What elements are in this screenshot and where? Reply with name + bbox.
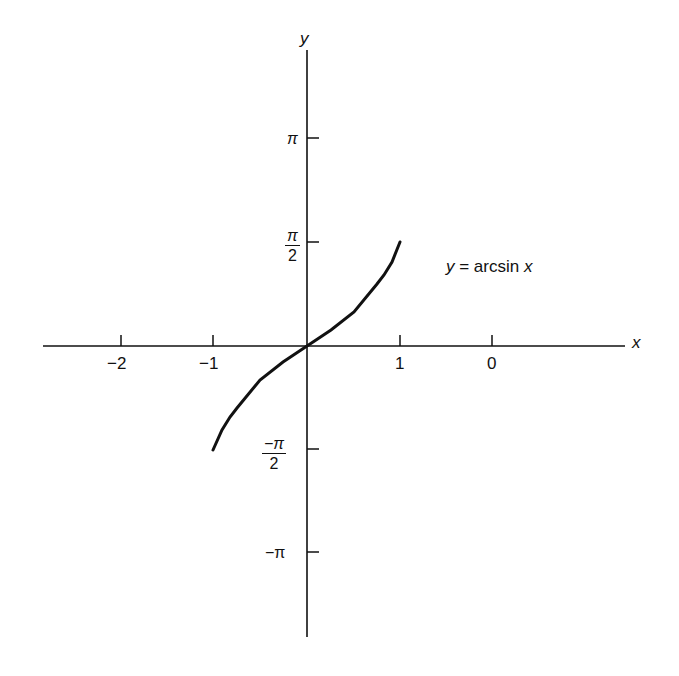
y-axis-label: y <box>300 30 309 47</box>
x-tick-label-1: 1 <box>395 355 404 372</box>
y-tick-label-minus-pi-over-2: −π 2 <box>262 436 286 472</box>
curve-equation-label: y = arcsin x <box>446 258 532 275</box>
fraction-denominator: 2 <box>285 246 300 264</box>
x-axis-label: x <box>632 334 641 351</box>
equation-x: x <box>524 257 533 276</box>
plot-area <box>0 0 679 676</box>
fraction-numerator: −π <box>262 436 286 454</box>
x-tick-label-m2: −2 <box>107 355 126 372</box>
fraction-denominator: 2 <box>262 454 286 472</box>
equation-body: = arcsin <box>455 257 524 276</box>
fraction-numerator: π <box>285 228 300 246</box>
y-tick-label-minus-pi: −π <box>265 545 285 561</box>
y-tick-label-pi: π <box>287 131 298 147</box>
x-tick-label-2: 0 <box>487 355 496 372</box>
y-tick-label-pi-over-2: π 2 <box>285 228 300 264</box>
x-tick-label-m1: −1 <box>199 355 218 372</box>
equation-y: y <box>446 257 455 276</box>
